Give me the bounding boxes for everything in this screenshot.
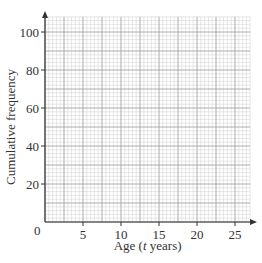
axes	[42, 11, 257, 225]
x-axis-title-prefix: Age (	[114, 238, 143, 253]
x-axis-title-suffix: years)	[147, 238, 182, 253]
y-tick-label: 20	[26, 177, 39, 192]
y-tick-label: 100	[20, 25, 40, 40]
y-tick-label: 40	[26, 139, 39, 154]
cumulative-frequency-chart: 510152025 20406080100 0 Age (t years) Cu…	[0, 0, 262, 263]
y-axis-arrow-icon	[42, 11, 48, 18]
x-axis-arrow-icon	[250, 219, 257, 225]
y-tick-labels: 20406080100	[20, 25, 46, 192]
x-tick-label: 25	[229, 227, 242, 242]
x-axis-title: Age (t years)	[114, 238, 182, 253]
origin-label: 0	[34, 223, 41, 238]
x-tick-label: 20	[191, 227, 204, 242]
y-axis-title: Cumulative frequency	[3, 69, 18, 185]
grid-minor-lines	[45, 17, 250, 222]
y-tick-label: 80	[26, 63, 39, 78]
x-tick-label: 5	[80, 227, 87, 242]
y-tick-label: 60	[26, 101, 39, 116]
